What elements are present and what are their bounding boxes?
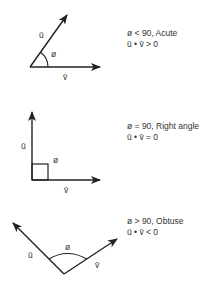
- dot-product-condition: ū • v̄ < 0: [127, 227, 183, 238]
- obtuse-panel: ū ø v̄: [13, 223, 117, 274]
- obtuse-caption: ø > 90, Obtuse ū • v̄ < 0: [127, 216, 183, 238]
- right-angle-square: [32, 164, 48, 180]
- vector-u-arrow: [13, 223, 64, 274]
- v-label: v̄: [64, 185, 69, 195]
- acute-caption: ø < 90, Acute ū • v̄ > 0: [127, 28, 177, 50]
- v-label: v̄: [95, 260, 100, 270]
- u-label: ū: [21, 141, 26, 151]
- right-angle-panel: ū ø v̄: [21, 112, 100, 195]
- angle-condition: ø < 90, Acute: [127, 28, 177, 39]
- dot-product-condition: ū • v̄ > 0: [127, 39, 177, 50]
- vector-v-arrow: [64, 239, 117, 274]
- u-label: ū: [28, 250, 33, 260]
- angle-arc: [40, 52, 48, 67]
- angle-condition: ø > 90, Obtuse: [127, 216, 183, 227]
- vector-u-arrow: [30, 15, 67, 67]
- right-angle-caption: ø = 90, Right angle ū • v̄ = 0: [127, 121, 199, 143]
- v-label: v̄: [63, 72, 68, 82]
- u-label: ū: [39, 30, 44, 40]
- angle-label: ø: [51, 49, 56, 59]
- angle-arc: [49, 254, 87, 260]
- angle-label: ø: [65, 242, 70, 252]
- acute-panel: ū ø v̄: [30, 15, 100, 82]
- angle-label: ø: [53, 155, 58, 165]
- angle-condition: ø = 90, Right angle: [127, 121, 199, 132]
- dot-product-condition: ū • v̄ = 0: [127, 132, 199, 143]
- vector-angle-diagram: ū ø v̄ ū ø v̄ ū ø v̄: [0, 0, 213, 288]
